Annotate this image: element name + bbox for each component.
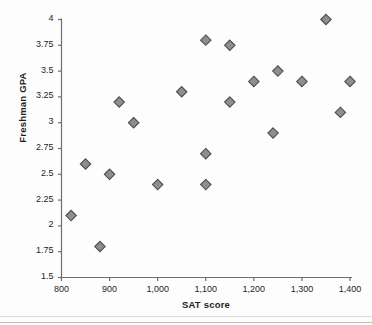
data-point-marker bbox=[321, 14, 331, 24]
y-tick-label: 2.75 bbox=[20, 142, 54, 152]
y-tick-label: 1.75 bbox=[20, 245, 54, 255]
y-tick-label: 2.5 bbox=[20, 168, 54, 178]
data-point-marker bbox=[152, 179, 162, 189]
x-tick-label: 800 bbox=[40, 284, 84, 294]
x-tick-label: 1,200 bbox=[232, 284, 276, 294]
x-tick-label: 1,300 bbox=[280, 284, 324, 294]
data-point-marker bbox=[114, 97, 124, 107]
y-tick-label: 4 bbox=[20, 13, 54, 23]
page-divider-bottom bbox=[0, 322, 372, 323]
data-point-marker bbox=[335, 107, 345, 117]
data-point-marker bbox=[273, 66, 283, 76]
data-point-marker bbox=[95, 241, 105, 251]
page-divider-top bbox=[0, 316, 372, 317]
data-point-marker bbox=[345, 76, 355, 86]
data-point-marker bbox=[104, 169, 114, 179]
x-axis-title: SAT score bbox=[61, 299, 351, 310]
data-point-marker bbox=[177, 87, 187, 97]
data-point-marker bbox=[128, 118, 138, 128]
plot-area bbox=[0, 0, 372, 325]
data-point-marker bbox=[249, 76, 259, 86]
data-point-marker bbox=[225, 40, 235, 50]
data-point-marker bbox=[201, 179, 211, 189]
data-point-marker bbox=[297, 76, 307, 86]
data-point-marker bbox=[201, 35, 211, 45]
y-tick-label: 1.5 bbox=[20, 271, 54, 281]
data-point-marker bbox=[80, 159, 90, 169]
y-tick-label: 3.75 bbox=[20, 39, 54, 49]
x-tick-label: 1,100 bbox=[184, 284, 228, 294]
y-tick-label: 2 bbox=[20, 219, 54, 229]
x-tick-label: 900 bbox=[88, 284, 132, 294]
y-tick-label: 3.25 bbox=[20, 90, 54, 100]
y-tick-label: 2.25 bbox=[20, 194, 54, 204]
data-point-marker bbox=[268, 128, 278, 138]
data-point-marker bbox=[66, 210, 76, 220]
data-point-marker bbox=[225, 97, 235, 107]
scatter-chart: Freshman GPA SAT score 1.51.7522.252.52.… bbox=[0, 0, 372, 325]
x-tick-label: 1,000 bbox=[136, 284, 180, 294]
data-point-marker bbox=[201, 148, 211, 158]
x-tick-label: 1,400 bbox=[328, 284, 372, 294]
y-tick-label: 3 bbox=[20, 116, 54, 126]
y-tick-label: 3.5 bbox=[20, 65, 54, 75]
